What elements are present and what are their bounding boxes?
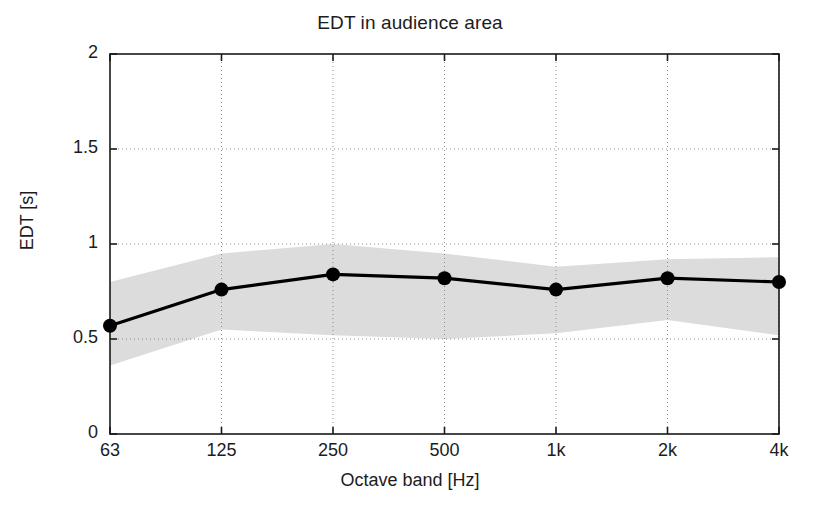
x-tick-label: 125 <box>182 440 262 461</box>
y-tick-label: 2 <box>38 42 98 63</box>
x-tick-label: 1k <box>516 440 596 461</box>
x-tick-label: 250 <box>293 440 373 461</box>
x-tick-label: 63 <box>70 440 150 461</box>
data-point-marker <box>772 275 786 289</box>
data-point-marker <box>103 319 117 333</box>
gridlines <box>110 54 779 434</box>
data-point-marker <box>326 267 340 281</box>
y-tick-label: 0.5 <box>38 327 98 348</box>
data-point-marker <box>438 271 452 285</box>
x-tick-label: 500 <box>405 440 485 461</box>
y-tick-label: 1.5 <box>38 137 98 158</box>
x-tick-label: 4k <box>739 440 819 461</box>
data-point-marker <box>549 283 563 297</box>
data-point-marker <box>661 271 675 285</box>
chart-figure: EDT in audience area EDT [s] Octave band… <box>0 0 820 517</box>
y-tick-label: 1 <box>38 232 98 253</box>
x-tick-label: 2k <box>628 440 708 461</box>
data-point-marker <box>215 283 229 297</box>
